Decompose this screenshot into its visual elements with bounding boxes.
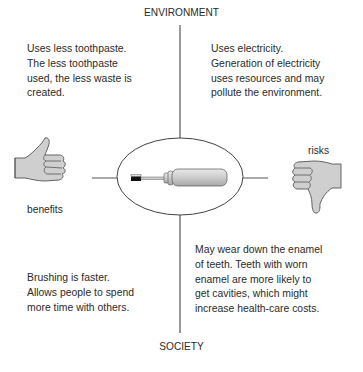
quadrant-environment-benefits: Uses less toothpaste. The less toothpast… <box>27 41 167 100</box>
risks-label: risks <box>308 144 329 156</box>
quadrant-society-benefits: Brushing is faster. Allows people to spe… <box>27 270 167 314</box>
quadrant-society-risks: May wear down the enamel of teeth. Teeth… <box>195 242 353 316</box>
quadrant-environment-risks: Uses electricity. Generation of electric… <box>211 41 360 100</box>
thumbs-up-icon <box>15 138 65 181</box>
axis-label-environment: ENVIRONMENT <box>15 6 349 18</box>
thumbs-down-icon <box>293 161 341 213</box>
electric-toothbrush-icon <box>117 138 243 215</box>
benefits-label: benefits <box>27 203 63 215</box>
axis-label-society: SOCIETY <box>15 340 349 352</box>
